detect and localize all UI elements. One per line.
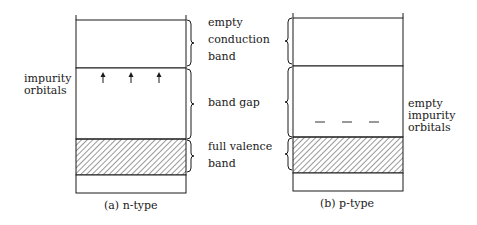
brace-gap-right — [285, 67, 292, 137]
conduction-line-2: conduction — [208, 34, 270, 46]
valence-line-1: full valence — [208, 141, 272, 153]
p-type-impurity-label: empty impurity orbitals — [408, 98, 456, 134]
p-impurity-line-3: orbitals — [408, 122, 456, 134]
valence-line-2: band — [208, 158, 272, 170]
p-type-panel — [293, 13, 403, 191]
p-type-valence-band — [293, 137, 403, 173]
n-type-caption: (a) n-type — [104, 200, 158, 212]
p-type-caption: (b) p-type — [320, 198, 374, 210]
n-type-lower-band — [76, 175, 186, 193]
n-type-valence-band — [76, 139, 186, 175]
conduction-line-1: empty — [208, 17, 270, 29]
n-impurity-line-2: orbitals — [24, 85, 72, 97]
brace-conduction-right — [285, 18, 292, 64]
brace-gap-left — [187, 69, 194, 139]
n-type-impurity-label: impurity orbitals — [24, 73, 72, 97]
p-type-conduction-band — [293, 18, 403, 66]
brace-conduction-left — [187, 20, 194, 66]
braces-right — [285, 18, 292, 170]
brace-valence-right — [285, 138, 292, 170]
p-type-lower-band — [293, 173, 403, 191]
braces-left — [187, 20, 194, 172]
p-type-band-gap — [293, 66, 403, 137]
n-type-panel — [76, 15, 186, 193]
valence-band-label: full valence band — [208, 141, 272, 170]
conduction-band-label: empty conduction band — [208, 17, 270, 63]
brace-valence-left — [187, 140, 194, 172]
conduction-line-3: band — [208, 51, 270, 63]
band-gap-label: band gap — [208, 97, 260, 109]
n-type-conduction-band — [76, 20, 186, 68]
